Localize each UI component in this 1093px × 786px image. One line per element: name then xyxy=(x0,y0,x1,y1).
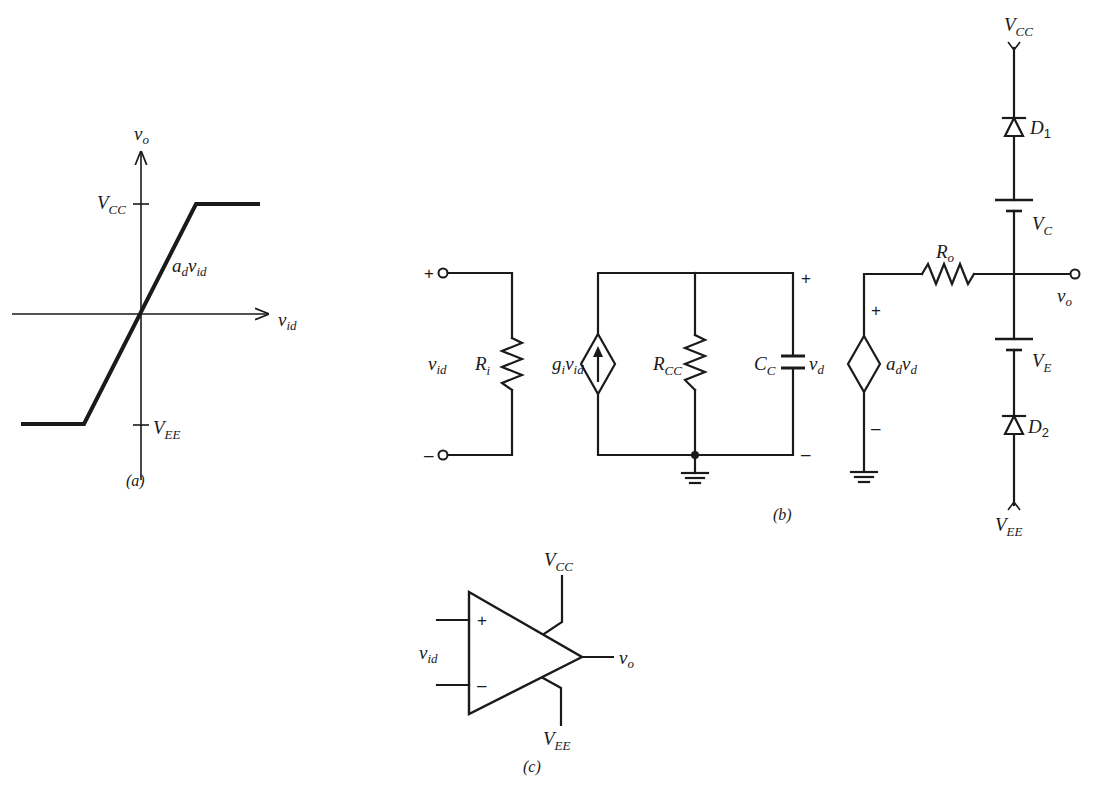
vo-label: vo xyxy=(1057,285,1072,309)
op-amp-model-figure: vo vid VCC VEE advid (a) + – vid Ri xyxy=(0,0,1093,786)
vee-label: VEE xyxy=(153,417,181,442)
vee-supply-lead xyxy=(543,678,561,725)
cc-label: CC xyxy=(754,353,776,378)
ground-icon xyxy=(851,472,877,482)
d1-diode xyxy=(1003,118,1025,136)
x-axis-label: vid xyxy=(278,309,297,333)
ve-label: VE xyxy=(1032,350,1052,375)
ground-icon xyxy=(682,473,708,483)
vcc-label: VCC xyxy=(1004,14,1033,39)
caption-a: (a) xyxy=(126,472,145,490)
input-minus-sign: – xyxy=(424,446,434,465)
vcc-label: VCC xyxy=(97,192,126,217)
ad-vd-label: advd xyxy=(886,353,917,377)
ri-resistor xyxy=(502,338,522,390)
y-axis-label: vo xyxy=(134,123,149,147)
ground-node xyxy=(691,451,699,459)
vid-label: vid xyxy=(428,353,447,377)
d2-label: D2 xyxy=(1027,416,1049,440)
caption-c: (c) xyxy=(523,758,541,776)
d2-diode xyxy=(1003,416,1025,434)
transfer-characteristic-plot: vo vid VCC VEE advid (a) xyxy=(12,123,297,490)
ve-battery xyxy=(995,339,1033,350)
vee-label: VEE xyxy=(543,728,571,753)
vcc-supply-lead xyxy=(544,576,562,634)
input-stage: + – vid Ri xyxy=(424,264,522,465)
vee-label: VEE xyxy=(995,514,1023,539)
gi-vid-label: givid xyxy=(552,353,584,377)
op-amp-symbol: + – vid vo VCC VEE (c) xyxy=(419,549,634,776)
src-minus-sign: – xyxy=(871,419,881,438)
equivalent-circuit: + – vid Ri giv xyxy=(424,14,1080,539)
ro-resistor xyxy=(922,264,974,284)
vd-plus-sign: + xyxy=(801,269,811,288)
vc-label: VC xyxy=(1032,213,1053,238)
vd-minus-sign: – xyxy=(801,445,811,464)
rcc-label: RCC xyxy=(652,353,682,378)
vo-label: vo xyxy=(619,647,634,671)
input-plus-sign: + xyxy=(424,264,434,283)
minus-sign: – xyxy=(477,676,487,695)
rcc-resistor xyxy=(685,335,705,390)
ro-label: Ro xyxy=(935,241,955,265)
vcc-label: VCC xyxy=(544,549,573,574)
output-stage: + – advd Ro vo VCC VEE D1 VC VE D2 xyxy=(848,14,1080,539)
vd-label: vd xyxy=(809,353,824,377)
vcc-supply-arrow-icon xyxy=(1008,42,1020,50)
plus-sign: + xyxy=(477,611,487,630)
slope-label: advid xyxy=(172,255,207,279)
ad-dependent-voltage-source xyxy=(848,336,880,392)
d1-label: D1 xyxy=(1029,117,1051,141)
output-terminal xyxy=(1071,270,1080,279)
input-minus-terminal xyxy=(439,451,448,460)
ri-label: Ri xyxy=(474,353,491,378)
caption-b: (b) xyxy=(773,506,792,524)
src-plus-sign: + xyxy=(871,301,881,320)
input-plus-terminal xyxy=(439,269,448,278)
gain-stage: givid RCC CC vd + – (b) xyxy=(552,269,824,524)
vc-battery xyxy=(995,200,1033,211)
vid-label: vid xyxy=(419,642,438,666)
